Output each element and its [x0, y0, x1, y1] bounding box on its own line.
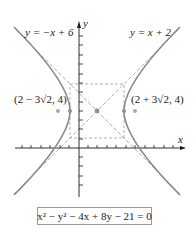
- y-axis: [77, 21, 83, 197]
- hyperbola-right-branch: [124, 27, 180, 195]
- point-right-label: (2 + 3√2, 4): [131, 93, 184, 106]
- vertex-right: [122, 109, 126, 113]
- asymptote-pos-label: y = x + 2: [129, 26, 172, 38]
- x-axis-label: x: [177, 133, 183, 145]
- point-left: [56, 109, 60, 113]
- asymptote-neg-label: y = −x + 6: [24, 26, 74, 38]
- hyperbola-figure: y = −x + 6 y = x + 2 y x (2 − 3√2, 4) (2…: [0, 0, 195, 237]
- equation-box: x² − y² − 4x + 8y − 21 = 0: [37, 207, 152, 225]
- x-axis: [15, 145, 186, 150]
- point-right: [133, 109, 137, 113]
- point-left-label: (2 − 3√2, 4): [14, 93, 67, 106]
- hyperbola-left-branch: [14, 27, 70, 195]
- center-point: [95, 109, 100, 114]
- vertex-left: [68, 109, 72, 113]
- y-axis-label: y: [82, 17, 88, 29]
